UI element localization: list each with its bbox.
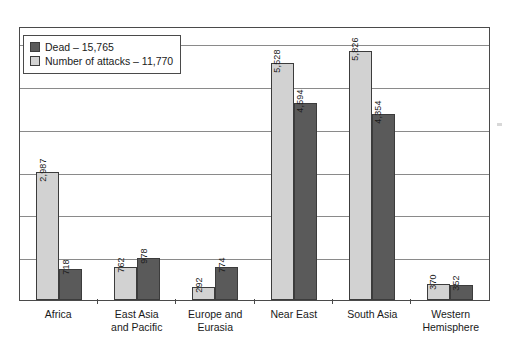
bar-dead[interactable]: 718 <box>59 269 82 300</box>
category-label-line: East Asia <box>98 308 177 321</box>
bar-group: 292774 <box>176 28 254 300</box>
bar-dead[interactable]: 4,354 <box>372 114 395 300</box>
bar-value-label: 2,987 <box>39 158 48 182</box>
category-label-line: Eurasia <box>176 321 255 334</box>
category-label-3: Near East <box>255 308 334 333</box>
bar-group: 5,5284,594 <box>255 28 333 300</box>
legend-label: Dead – 15,765 <box>45 40 114 54</box>
bar-number-of-attacks[interactable]: 370 <box>427 284 450 300</box>
category-label-line: Africa <box>19 308 98 321</box>
bar-value-label: 978 <box>140 248 149 264</box>
legend-item[interactable]: Dead – 15,765 <box>30 40 173 54</box>
category-label-line: Hemisphere <box>412 321 491 334</box>
bar-value-label: 5,528 <box>273 49 282 73</box>
bar-value-label: 370 <box>429 274 438 290</box>
category-label-line: Western <box>412 308 491 321</box>
category-label-0: Africa <box>19 308 98 333</box>
category-label-2: Europe andEurasia <box>176 308 255 333</box>
category-axis-labels: AfricaEast Asiaand PacificEurope andEura… <box>19 308 490 333</box>
bar-number-of-attacks[interactable]: 292 <box>192 287 215 300</box>
chart-legend: Dead – 15,765Number of attacks – 11,770 <box>23 35 181 74</box>
legend-swatch-attacks <box>30 56 40 66</box>
category-label-line: South Asia <box>333 308 412 321</box>
category-label-line: Near East <box>255 308 334 321</box>
bar-value-label: 4,354 <box>374 100 383 124</box>
bar-dead[interactable]: 352 <box>450 285 473 300</box>
bar-number-of-attacks[interactable]: 762 <box>114 267 137 300</box>
bar-value-label: 5,826 <box>351 37 360 61</box>
scan-artifact <box>497 123 502 126</box>
bar-value-label: 774 <box>218 257 227 273</box>
bar-value-label: 4,594 <box>296 89 305 113</box>
category-label-4: South Asia <box>333 308 412 333</box>
bar-dead[interactable]: 978 <box>137 258 160 300</box>
bar-group: 5,8264,354 <box>333 28 411 300</box>
legend-swatch-dead <box>30 42 40 52</box>
bar-value-label: 762 <box>117 257 126 273</box>
bar-group: 370352 <box>411 28 489 300</box>
bar-number-of-attacks[interactable]: 2,987 <box>36 172 59 300</box>
category-label-1: East Asiaand Pacific <box>98 308 177 333</box>
legend-label: Number of attacks – 11,770 <box>45 54 173 68</box>
category-label-line: and Pacific <box>98 321 177 334</box>
bar-dead[interactable]: 774 <box>215 267 238 300</box>
bar-value-label: 718 <box>62 259 71 275</box>
bar-value-label: 292 <box>195 277 204 293</box>
legend-item[interactable]: Number of attacks – 11,770 <box>30 54 173 68</box>
category-label-5: WesternHemisphere <box>412 308 491 333</box>
bar-number-of-attacks[interactable]: 5,528 <box>271 63 294 300</box>
bar-number-of-attacks[interactable]: 5,826 <box>349 51 372 300</box>
bar-dead[interactable]: 4,594 <box>294 103 317 300</box>
bar-value-label: 352 <box>452 275 461 291</box>
category-label-line: Europe and <box>176 308 255 321</box>
